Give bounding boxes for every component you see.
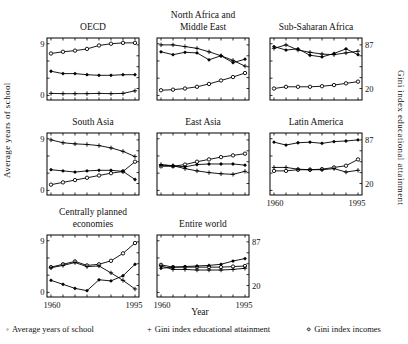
svg-text:0: 0 (40, 287, 44, 297)
x-axis-label: Year (150, 307, 250, 317)
circle-marker-icon: ◦ (6, 324, 9, 334)
diamond-marker-icon: ⋄ (306, 324, 311, 334)
svg-text:1960: 1960 (44, 300, 61, 310)
left-axis-label: Average years of school (0, 55, 14, 205)
right-axis-label: Gini index educational attainment (394, 20, 408, 255)
svg-text:20: 20 (365, 84, 374, 94)
svg-text:1995: 1995 (349, 198, 366, 208)
legend-label: Gini index educational attainment (155, 324, 270, 334)
svg-text:87: 87 (252, 237, 261, 247)
svg-text:20: 20 (365, 179, 374, 189)
small-multiples-figure: Average years of school Gini index educa… (0, 0, 408, 344)
svg-text:87: 87 (365, 40, 374, 50)
legend-item-gini-educational-attainment: +Gini index educational attainment (147, 324, 270, 334)
chart-north-africa-middle-east (143, 36, 267, 120)
svg-text:0: 0 (40, 90, 44, 100)
panel-title-sub-saharan-africa: Sub-Saharan Africa (260, 6, 372, 34)
svg-text:1995: 1995 (126, 300, 143, 310)
legend-label: Gini index incomes (314, 324, 381, 334)
panel-title-north-africa-middle-east: North Africa and Middle East (147, 6, 259, 34)
svg-text:9: 9 (40, 134, 44, 144)
chart-latin-america: 872019601995 (256, 131, 380, 215)
svg-text:87: 87 (365, 135, 374, 145)
chart-south-asia: 90 (33, 131, 157, 215)
panel-title-oecd: OECD (37, 6, 149, 34)
svg-text:9: 9 (40, 39, 44, 49)
legend-item-average-years-of-school: ◦Average years of school (6, 324, 94, 334)
chart-centrally-planned: 9019601995 (33, 233, 157, 317)
chart-sub-saharan-africa: 8720 (256, 36, 380, 120)
chart-oecd: 90 (33, 36, 157, 120)
svg-text:9: 9 (40, 236, 44, 246)
legend-label: Average years of school (12, 324, 94, 334)
svg-text:20: 20 (252, 281, 261, 291)
legend-item-gini-incomes: ⋄Gini index incomes (306, 324, 381, 334)
svg-text:0: 0 (40, 185, 44, 195)
svg-text:1960: 1960 (267, 198, 284, 208)
chart-entire-world: 872019601995 (143, 233, 267, 317)
plus-marker-icon: + (147, 324, 152, 334)
chart-east-asia (143, 131, 267, 215)
